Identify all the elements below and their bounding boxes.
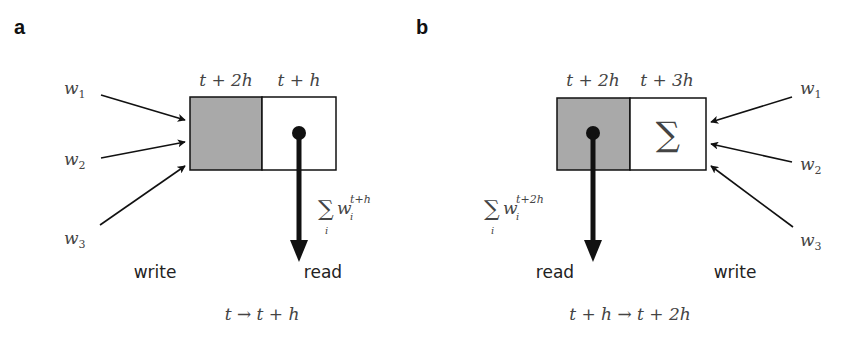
read-expression-a: ∑ i w i t+h <box>318 193 371 236</box>
write-arrow-w2 <box>711 144 792 162</box>
read-expression-b: ∑ i w i t+2h <box>484 193 544 236</box>
svg-text:t+h: t+h <box>350 193 371 206</box>
svg-text:t+2h: t+2h <box>516 193 544 206</box>
cell-header-b-1: t + 3h <box>640 70 694 90</box>
write-arrow-w2 <box>101 142 185 158</box>
read-label-b: read <box>536 262 574 282</box>
svg-text:∑: ∑ <box>318 196 334 221</box>
input-label-w2: w2 <box>800 154 822 177</box>
panel-label-a: a <box>14 16 26 38</box>
ring-buffer-diagram: a t + 2h t + h w1 w2 w3 ∑ i w i t+h writ… <box>0 0 855 339</box>
svg-text:i: i <box>516 211 519 222</box>
panel-b: b t + 2h t + 3h ∑ w1 w2 w3 ∑ i w i t+2h … <box>416 16 822 324</box>
cell-header-a-0: t + 2h <box>199 70 253 90</box>
read-arrow-head <box>584 240 602 262</box>
svg-text:i: i <box>325 225 328 236</box>
input-label-w3: w3 <box>64 228 86 251</box>
input-label-w1: w1 <box>800 78 822 101</box>
read-label-a: read <box>304 262 342 282</box>
transition-label-a: t → t + h <box>225 304 300 324</box>
write-label-b: write <box>714 262 757 282</box>
panel-label-b: b <box>416 16 428 38</box>
svg-text:i: i <box>350 211 353 222</box>
sum-symbol: ∑ <box>656 114 680 154</box>
cell-header-b-0: t + 2h <box>566 70 620 90</box>
input-label-w2: w2 <box>64 149 86 172</box>
svg-text:i: i <box>491 225 494 236</box>
input-label-w3: w3 <box>800 230 822 253</box>
buffer-cell-shaded <box>190 97 262 170</box>
panel-a: a t + 2h t + h w1 w2 w3 ∑ i w i t+h writ… <box>14 16 371 324</box>
transition-label-b: t + h → t + 2h <box>569 304 691 324</box>
write-arrow-w3 <box>100 166 185 225</box>
write-arrow-w3 <box>711 166 793 227</box>
write-label-a: write <box>134 262 177 282</box>
svg-text:∑: ∑ <box>484 196 500 221</box>
write-arrow-w1 <box>711 97 792 122</box>
read-arrow-head <box>290 240 308 262</box>
input-label-w1: w1 <box>64 78 86 101</box>
write-arrow-w1 <box>101 95 185 120</box>
cell-header-a-1: t + h <box>278 70 321 90</box>
